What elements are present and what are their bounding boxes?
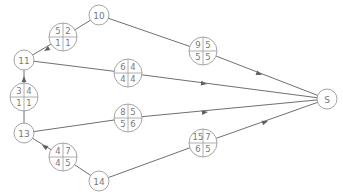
- event-node-14: 14: [89, 171, 109, 191]
- edge-11-to-S: [24, 60, 327, 99]
- activity-box: 6444: [114, 59, 142, 87]
- activity-box: 4745: [49, 143, 77, 171]
- event-node-13: 13: [14, 123, 34, 143]
- cell-bottom-left: 4: [120, 74, 125, 84]
- cell-top-right: 5: [205, 40, 210, 50]
- cell-top-left: 15: [193, 132, 204, 142]
- node-label: 10: [93, 11, 105, 21]
- cell-bottom-left: 5: [120, 119, 125, 129]
- activity-box: 3411: [10, 83, 38, 111]
- cell-top-left: 9: [195, 40, 200, 50]
- cell-top-left: 8: [120, 107, 125, 117]
- cell-top-right: 4: [26, 86, 31, 96]
- node-label: 14: [93, 177, 105, 187]
- cell-bottom-right: 5: [205, 144, 210, 154]
- network-diagram: 52113411474564449555855615765 10111314S: [0, 0, 343, 196]
- cell-bottom-right: 4: [130, 74, 135, 84]
- cell-bottom-right: 1: [26, 98, 31, 108]
- event-node-S: S: [317, 89, 337, 109]
- node-label: 11: [18, 56, 29, 66]
- arrowhead-icon-14-to-13: [42, 145, 48, 150]
- cell-top-left: 5: [55, 26, 60, 36]
- arrowhead-icon-14-to-S: [262, 121, 268, 126]
- cell-bottom-right: 1: [65, 38, 70, 48]
- node-label: 13: [18, 129, 29, 139]
- node-label: S: [324, 95, 330, 105]
- cell-bottom-right: 6: [130, 119, 135, 129]
- cell-bottom-left: 5: [195, 52, 200, 62]
- cell-top-right: 5: [130, 107, 135, 117]
- event-node-10: 10: [89, 5, 109, 25]
- event-node-11: 11: [14, 50, 34, 70]
- arrowhead-icon-13-to-11: [22, 76, 27, 82]
- activity-box: 9555: [189, 37, 217, 65]
- cell-top-right: 7: [205, 132, 210, 142]
- cell-bottom-left: 4: [55, 158, 60, 168]
- diagram-canvas: 52113411474564449555855615765 10111314S: [0, 0, 343, 196]
- cell-top-right: 4: [130, 62, 135, 72]
- cell-top-left: 6: [120, 62, 125, 72]
- cell-bottom-right: 5: [65, 158, 70, 168]
- cell-top-left: 4: [55, 146, 60, 156]
- cell-top-right: 7: [65, 146, 70, 156]
- cell-bottom-left: 6: [195, 144, 200, 154]
- activity-box: 8556: [114, 104, 142, 132]
- edge-13-to-S: [24, 99, 327, 133]
- cell-bottom-left: 1: [16, 98, 21, 108]
- cell-top-left: 3: [16, 86, 21, 96]
- cell-bottom-left: 1: [55, 38, 60, 48]
- cell-top-right: 2: [65, 26, 70, 36]
- cell-bottom-right: 5: [205, 52, 210, 62]
- activity-box: 15765: [189, 129, 217, 157]
- activity-box: 5211: [49, 23, 77, 51]
